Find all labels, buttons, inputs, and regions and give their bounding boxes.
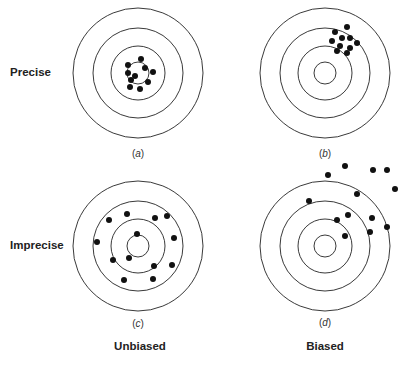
- target-diagram: [0, 0, 402, 371]
- ring-2: [298, 219, 352, 273]
- shot-dot: [367, 229, 373, 235]
- ring-1: [127, 235, 149, 257]
- caption-a: (a): [132, 148, 144, 159]
- shot-dot: [171, 235, 177, 241]
- ring-2: [111, 46, 165, 100]
- shot-dot: [134, 231, 140, 237]
- shot-dot: [332, 29, 338, 35]
- ring-3: [280, 201, 370, 291]
- caption-paren-close: ): [141, 318, 144, 329]
- shot-dot: [124, 211, 130, 217]
- shot-dot: [354, 191, 360, 197]
- shot-dot: [392, 186, 398, 192]
- target-c: [73, 181, 203, 311]
- ring-2: [111, 219, 165, 273]
- caption-paren-close: ): [141, 148, 144, 159]
- shot-dot: [329, 38, 335, 44]
- shot-dot: [370, 167, 376, 173]
- shot-dot: [126, 255, 132, 261]
- shot-dot: [342, 163, 348, 169]
- caption-paren-close: ): [328, 148, 331, 159]
- shot-dot: [334, 48, 340, 54]
- shot-dot: [151, 263, 157, 269]
- shot-dot: [306, 198, 312, 204]
- target-b: [260, 8, 390, 138]
- shot-dot: [169, 262, 175, 268]
- shot-dot: [345, 212, 351, 218]
- col-label-biased: Biased: [306, 340, 344, 352]
- shot-dot: [164, 213, 170, 219]
- shot-dot: [121, 277, 127, 283]
- shot-dot: [342, 233, 348, 239]
- shot-dot: [337, 43, 343, 49]
- shot-dot: [384, 167, 390, 173]
- shot-dot: [152, 215, 158, 221]
- shot-dot: [106, 217, 112, 223]
- caption-d: (d): [319, 317, 331, 328]
- shot-dot: [138, 56, 144, 62]
- shot-dot: [127, 84, 133, 90]
- shot-dot: [94, 239, 100, 245]
- shot-dot: [150, 69, 156, 75]
- caption-c: (c): [132, 318, 144, 329]
- shot-dot: [347, 35, 353, 41]
- target-a: [73, 8, 203, 138]
- col-label-unbiased: Unbiased: [114, 340, 166, 352]
- shot-dot: [110, 257, 116, 263]
- shot-dot: [334, 217, 340, 223]
- shot-dot: [125, 70, 131, 76]
- row-label-precise: Precise: [10, 66, 51, 78]
- shot-dot: [128, 77, 134, 83]
- ring-1: [314, 235, 336, 257]
- shot-dot: [142, 65, 148, 71]
- shot-dot: [369, 215, 375, 221]
- shot-dot: [145, 79, 151, 85]
- caption-b: (b): [319, 148, 331, 159]
- row-label-imprecise: Imprecise: [10, 239, 64, 251]
- caption-paren-close: ): [328, 317, 331, 328]
- shot-dot: [344, 50, 350, 56]
- ring-1: [314, 62, 336, 84]
- shot-dot: [344, 24, 350, 30]
- ring-3: [93, 28, 183, 118]
- target-d: [260, 163, 398, 311]
- shot-dot: [150, 276, 156, 282]
- ring-2: [298, 46, 352, 100]
- shot-dot: [137, 86, 143, 92]
- shot-dot: [125, 62, 131, 68]
- shot-dot: [384, 224, 390, 230]
- shot-dot: [347, 45, 353, 51]
- shot-dot: [339, 35, 345, 41]
- shot-dot: [354, 40, 360, 46]
- shot-dot: [325, 172, 331, 178]
